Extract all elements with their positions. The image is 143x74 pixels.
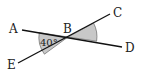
label-a: A bbox=[8, 22, 18, 36]
label-b: B bbox=[63, 22, 72, 36]
label-d: D bbox=[125, 41, 135, 55]
angle-measure-label: 40° bbox=[40, 37, 58, 48]
line-ad bbox=[22, 30, 122, 47]
label-c: C bbox=[113, 6, 122, 20]
diagram-canvas: A B C D E 40° bbox=[0, 0, 143, 74]
label-e: E bbox=[7, 58, 16, 72]
